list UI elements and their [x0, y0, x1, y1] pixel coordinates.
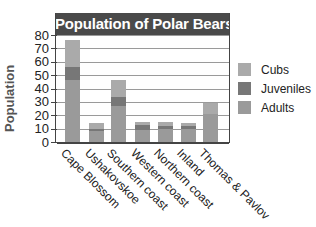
- legend: Cubs Juveniles Adults: [238, 60, 311, 117]
- x-axis-line: [57, 142, 229, 144]
- bar-segment-juveniles: [111, 97, 126, 106]
- bar: [89, 123, 104, 142]
- y-tick-label: 10: [25, 122, 49, 135]
- bar: [158, 122, 173, 142]
- gridline: [57, 62, 229, 63]
- bar-segment-cubs: [65, 40, 80, 67]
- y-axis-label: Population: [2, 65, 17, 132]
- plot-area: [57, 35, 229, 142]
- y-tick-label: 20: [25, 109, 49, 122]
- y-tick-label: 60: [25, 55, 49, 68]
- bar: [65, 40, 80, 142]
- y-tick-label: 50: [25, 69, 49, 82]
- y-tick-label: 70: [25, 42, 49, 55]
- bar-segment-cubs: [203, 103, 218, 114]
- legend-swatch-juveniles: [238, 82, 251, 95]
- bar-segment-adults: [158, 129, 173, 142]
- gridline: [57, 75, 229, 76]
- bar-segment-adults: [203, 114, 218, 142]
- bar-segment-adults: [65, 80, 80, 142]
- legend-label: Cubs: [261, 63, 289, 77]
- bar-segment-adults: [89, 131, 104, 142]
- bar: [111, 80, 126, 142]
- legend-swatch-adults: [238, 101, 251, 114]
- bar: [135, 122, 150, 142]
- bar: [203, 103, 218, 142]
- bar-segment-adults: [111, 106, 126, 142]
- legend-item-cubs: Cubs: [238, 60, 311, 79]
- y-tick-label: 30: [25, 95, 49, 108]
- y-tick-label: 80: [25, 29, 49, 42]
- legend-label: Juveniles: [261, 82, 311, 96]
- legend-label: Adults: [261, 101, 294, 115]
- legend-item-adults: Adults: [238, 98, 311, 117]
- y-tick-label: 40: [25, 82, 49, 95]
- legend-item-juveniles: Juveniles: [238, 79, 311, 98]
- bar-segment-cubs: [111, 80, 126, 96]
- gridline: [57, 89, 229, 90]
- gridline: [57, 35, 229, 36]
- bar-segment-adults: [181, 129, 196, 142]
- bar: [181, 123, 196, 142]
- bar-segment-juveniles: [65, 67, 80, 80]
- bar-segment-adults: [135, 130, 150, 142]
- gridline: [57, 48, 229, 49]
- legend-swatch-cubs: [238, 63, 251, 76]
- y-tick-label: 0: [25, 136, 49, 149]
